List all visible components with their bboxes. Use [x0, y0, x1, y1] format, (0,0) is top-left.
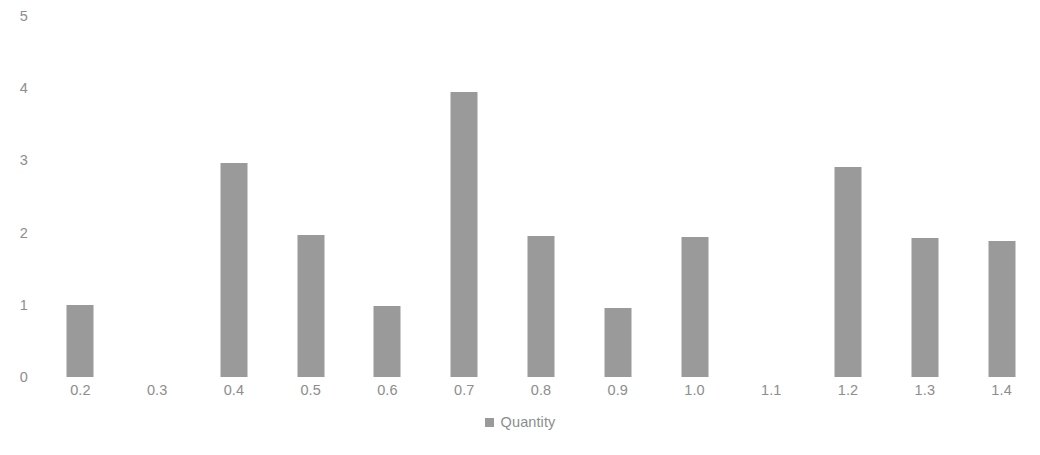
bar-quantity[interactable]	[67, 305, 94, 377]
y-tick-label: 4	[20, 80, 28, 96]
bar-group: 1.0	[656, 0, 733, 377]
bar-quantity[interactable]	[374, 306, 401, 377]
x-tick-label: 1.3	[915, 382, 935, 398]
x-tick-label: 1.1	[761, 382, 781, 398]
y-tick-label: 0	[20, 369, 28, 385]
x-tick-label: 1.0	[684, 382, 704, 398]
bar-quantity[interactable]	[988, 241, 1015, 377]
bar-group: 1.3	[886, 0, 963, 377]
bar-group: 0.3	[119, 0, 196, 377]
bar-quantity[interactable]	[451, 92, 478, 377]
bar-quantity[interactable]	[835, 167, 862, 377]
bar-group: 0.7	[426, 0, 503, 377]
x-tick-label: 0.2	[70, 382, 90, 398]
bar-group: 0.2	[42, 0, 119, 377]
x-tick-label: 0.8	[531, 382, 551, 398]
bar-group: 1.2	[810, 0, 887, 377]
bar-group: 0.5	[272, 0, 349, 377]
bar-quantity[interactable]	[604, 308, 631, 377]
plot-area: 0.20.30.40.50.60.70.80.91.01.11.21.31.4	[42, 0, 1040, 455]
x-tick-label: 0.3	[147, 382, 167, 398]
bar-quantity[interactable]	[297, 235, 324, 377]
bar-quantity[interactable]	[220, 163, 247, 377]
legend-label-quantity: Quantity	[501, 414, 556, 430]
bar-group: 0.4	[196, 0, 273, 377]
chart-legend: Quantity	[0, 414, 1040, 430]
bar-group: 0.6	[349, 0, 426, 377]
x-tick-label: 0.5	[300, 382, 320, 398]
y-tick-label: 3	[20, 152, 28, 168]
y-tick-label: 2	[20, 225, 28, 241]
bar-group: 0.9	[579, 0, 656, 377]
bar-quantity[interactable]	[911, 238, 938, 377]
bar-group: 1.4	[963, 0, 1040, 377]
x-tick-label: 0.6	[377, 382, 397, 398]
y-tick-label: 1	[20, 297, 28, 313]
x-tick-label: 0.7	[454, 382, 474, 398]
y-axis: 012345	[0, 0, 42, 455]
y-tick-label: 5	[20, 8, 28, 24]
bar-chart: 012345 0.20.30.40.50.60.70.80.91.01.11.2…	[0, 0, 1040, 455]
x-tick-label: 0.9	[608, 382, 628, 398]
legend-swatch-quantity	[485, 418, 494, 427]
bar-quantity[interactable]	[527, 236, 554, 377]
x-tick-label: 1.2	[838, 382, 858, 398]
bar-quantity[interactable]	[681, 237, 708, 377]
bar-group: 1.1	[733, 0, 810, 377]
x-tick-label: 1.4	[991, 382, 1011, 398]
bar-group: 0.8	[503, 0, 580, 377]
x-tick-label: 0.4	[224, 382, 244, 398]
